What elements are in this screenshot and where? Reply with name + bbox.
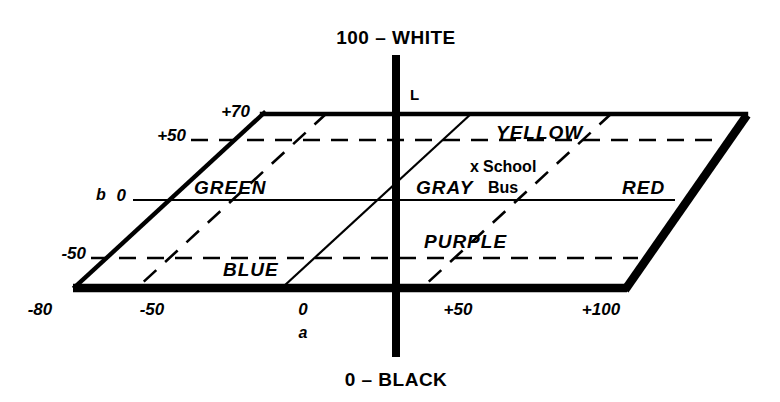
tick-a-zero: 0 [298,300,308,319]
sample-point-label-line1: School [483,158,536,175]
lab-diagram-svg: 100 – WHITE 0 – BLACK L +70 +50 b 0 -50 … [0,0,780,402]
tick-a-plus50: +50 [444,300,473,319]
region-label-red: RED [622,177,665,198]
lab-color-space-figure: 100 – WHITE 0 – BLACK L +70 +50 b 0 -50 … [0,0,780,402]
sample-point-marker: x [470,158,479,175]
tick-b-plus70: +70 [221,102,250,121]
tick-a-minus50: -50 [140,300,165,319]
tick-b-minus50: -50 [61,244,86,263]
axis-L-label: L [410,86,419,103]
axis-b-label: b [96,186,106,203]
tick-a-plus100: +100 [582,300,621,319]
region-label-gray: GRAY [416,177,475,198]
tick-a-minus80: -80 [28,300,53,319]
region-label-green: GREEN [194,177,267,198]
sample-point-label-line2: Bus [488,179,518,196]
axis-a-label: a [299,324,308,341]
region-label-yellow: YELLOW [496,122,584,143]
black-pole-label: 0 – BLACK [345,369,448,390]
region-label-blue: BLUE [223,259,279,280]
white-pole-label: 100 – WHITE [336,27,456,48]
tick-b-plus50: +50 [157,126,186,145]
tick-b-zero: 0 [117,186,127,205]
region-label-purple: PURPLE [424,231,507,252]
